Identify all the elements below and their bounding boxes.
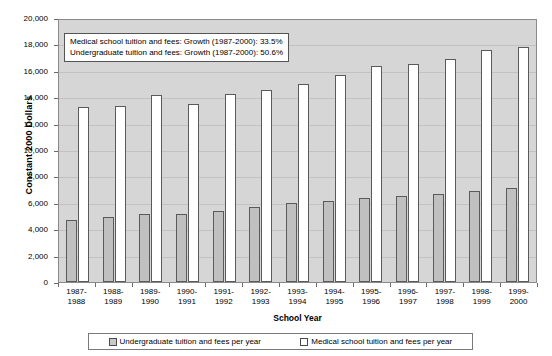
x-axis-label-line: 1998- [463,287,500,297]
x-axis-label: 1990-1991 [169,287,206,307]
x-axis-tick-mark [537,283,538,287]
x-axis-label-line: 1990 [132,297,169,307]
y-axis-tick-label: 0 [0,279,48,287]
bar-group [463,20,500,282]
legend-swatch-icon [300,338,308,346]
x-axis-label-line: 1999 [463,297,500,307]
x-axis-label-line: 1996- [390,287,427,297]
x-axis-label: 1993-1994 [279,287,316,307]
y-axis-tick-label: 2,000 [0,253,48,261]
y-axis-tick-label: 18,000 [0,41,48,49]
x-axis-label: 1995-1996 [353,287,390,307]
bar-medical [445,59,456,282]
bar-medical [371,66,382,282]
x-axis-label: 1992-1993 [242,287,279,307]
bar-group [353,20,390,282]
bar-medical [518,47,529,282]
bar-medical [78,107,89,282]
bar-undergrad [469,191,480,282]
x-axis-label-line: 1998 [426,297,463,307]
x-axis-label: 1994-1995 [316,287,353,307]
y-axis-tick-label: 16,000 [0,68,48,76]
bar-group [426,20,463,282]
bar-undergrad [213,211,224,282]
x-axis-label-line: 1997- [426,287,463,297]
bar-undergrad [176,214,187,282]
annotation-line-undergrad: Undergraduate tuition and fees: Growth (… [70,48,283,59]
legend-swatch-icon [109,338,117,346]
x-axis-label-line: 1994 [279,297,316,307]
bar-undergrad [506,188,517,282]
x-axis-label-line: 1991 [169,297,206,307]
bar-medical [151,95,162,282]
bar-medical [188,104,199,282]
bar-undergrad [359,198,370,282]
x-axis-label-line: 1993 [242,297,279,307]
x-axis-label-line: 1997 [390,297,427,307]
bar-undergrad [249,207,260,282]
bar-undergrad [433,194,444,282]
x-axis-label-line: 1995 [316,297,353,307]
y-axis-tick-label: 12,000 [0,121,48,129]
x-axis-label-line: 1989- [132,287,169,297]
y-axis-tick-label: 6,000 [0,200,48,208]
x-axis-label: 1987-1988 [58,287,95,307]
x-axis-labels: 1987-19881988-19891989-19901990-19911991… [58,287,537,307]
bar-group [389,20,426,282]
x-axis-label-line: 1994- [316,287,353,297]
bar-undergrad [103,217,114,282]
legend-label: Medical school tuition and fees per year [311,337,452,346]
bar-undergrad [396,196,407,282]
bar-medical [481,50,492,282]
x-axis-label-line: 1991- [205,287,242,297]
bar-undergrad [66,220,77,282]
x-axis-label: 1998-1999 [463,287,500,307]
x-axis-label: 1989-1990 [132,287,169,307]
x-axis-label-line: 1996 [353,297,390,307]
bar-group [499,20,536,282]
bar-medical [225,94,236,282]
bar-group [316,20,353,282]
chart-legend: Undergraduate tuition and fees per yearM… [88,333,473,350]
x-axis-label: 1991-1992 [205,287,242,307]
y-axis-tick-label: 10,000 [0,147,48,155]
x-axis-label-line: 1988 [58,297,95,307]
x-axis-label: 1988-1989 [95,287,132,307]
y-axis-tick-label: 20,000 [0,15,48,23]
x-axis-label: 1999-2000 [500,287,537,307]
y-axis-tick-label: 14,000 [0,94,48,102]
x-axis-label-line: 1999- [500,287,537,297]
bar-medical [298,84,309,282]
x-axis-label-line: 1995- [353,287,390,297]
x-axis-label-line: 1989 [95,297,132,307]
x-axis-label-line: 1993- [279,287,316,297]
legend-label: Undergraduate tuition and fees per year [120,337,261,346]
bar-undergrad [286,203,297,282]
bar-medical [408,64,419,282]
x-axis-title: School Year [58,313,537,323]
x-axis-label: 1997-1998 [426,287,463,307]
legend-item: Undergraduate tuition and fees per year [89,337,281,346]
growth-annotation-box: Medical school tuition and fees: Growth … [64,33,289,62]
bar-medical [115,106,126,282]
x-axis-label-line: 1992 [205,297,242,307]
annotation-line-medical: Medical school tuition and fees: Growth … [70,37,283,48]
bar-undergrad [323,201,334,282]
legend-item: Medical school tuition and fees per year [281,337,473,346]
y-axis-tick-label: 4,000 [0,226,48,234]
x-axis-label-line: 2000 [500,297,537,307]
y-axis-tick-label: 8,000 [0,173,48,181]
x-axis-label-line: 1990- [169,287,206,297]
x-axis-label: 1996-1997 [390,287,427,307]
bar-chart: Constant 2000 Dollars 20,00018,00016,000… [0,0,552,356]
bar-medical [335,75,346,282]
bar-undergrad [139,214,150,282]
x-axis-label-line: 1992- [242,287,279,297]
x-axis-label-line: 1988- [95,287,132,297]
x-axis-label-line: 1987- [58,287,95,297]
bar-medical [261,90,272,282]
